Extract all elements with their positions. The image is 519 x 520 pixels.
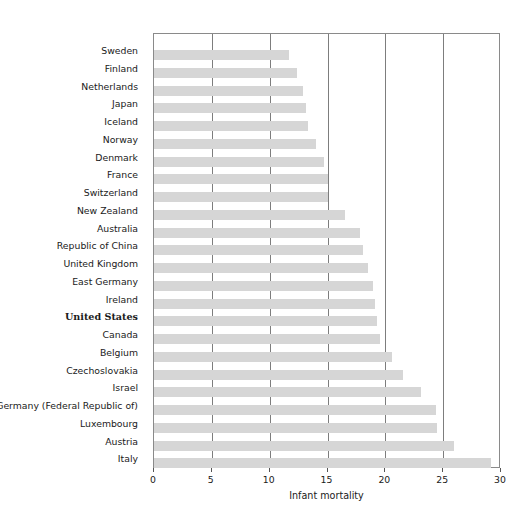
category-label: Austria: [105, 437, 138, 447]
bar: [154, 441, 454, 451]
bar-row: [154, 64, 501, 83]
bar-row: [154, 82, 501, 101]
bar: [154, 423, 437, 433]
x-tick-label: 10: [263, 474, 275, 485]
category-label: Norway: [103, 135, 138, 145]
bar: [154, 299, 375, 309]
bar: [154, 157, 324, 167]
bar-row: [154, 99, 501, 118]
category-label: Australia: [97, 224, 138, 234]
x-tick-mark: [327, 468, 328, 472]
category-label: Belgium: [100, 348, 138, 358]
bar-row: [154, 206, 501, 225]
bar-row: [154, 117, 501, 136]
category-label: Ireland: [106, 295, 138, 305]
category-label: Iceland: [104, 117, 138, 127]
bar: [154, 316, 377, 326]
category-label: Sweden: [101, 46, 138, 56]
category-label: Czechoslovakia: [66, 366, 138, 376]
category-label: Canada: [103, 330, 138, 340]
bar-row: [154, 277, 501, 296]
bar-row: [154, 348, 501, 367]
x-tick-mark: [442, 468, 443, 472]
x-axis: 051015202530 Infant mortality: [153, 468, 500, 469]
bar-row: [154, 366, 501, 385]
x-tick-mark: [384, 468, 385, 472]
bar: [154, 86, 303, 96]
plot-area: [153, 33, 500, 468]
category-label: Netherlands: [81, 82, 138, 92]
bar-row: [154, 46, 501, 65]
bar-row: [154, 259, 501, 278]
bar: [154, 458, 491, 468]
bar: [154, 228, 360, 238]
x-tick-mark: [269, 468, 270, 472]
category-label: Japan: [112, 99, 138, 109]
category-label: Republic of China: [57, 241, 138, 251]
bar: [154, 68, 297, 78]
x-tick-label: 0: [150, 474, 156, 485]
category-label: Denmark: [95, 153, 138, 163]
bar-row: [154, 383, 501, 402]
bar: [154, 334, 380, 344]
category-label: United Kingdom: [63, 259, 138, 269]
x-tick-mark: [500, 468, 501, 472]
bar: [154, 139, 316, 149]
category-label: East Germany: [72, 277, 138, 287]
bar: [154, 387, 421, 397]
bar: [154, 103, 306, 113]
x-axis-title: Infant mortality: [153, 490, 500, 501]
category-label: Switzerland: [84, 188, 138, 198]
x-tick-label: 15: [321, 474, 333, 485]
category-label: United States: [65, 312, 138, 322]
x-tick-label: 20: [378, 474, 390, 485]
category-label: Germany (Federal Republic of): [0, 401, 138, 411]
bar-row: [154, 437, 501, 456]
bar-row: [154, 153, 501, 172]
bar: [154, 352, 392, 362]
bar-row: [154, 188, 501, 207]
bar-row: [154, 241, 501, 260]
category-label: Israel: [113, 383, 138, 393]
category-label: New Zealand: [77, 206, 138, 216]
category-axis-labels: SwedenFinlandNetherlandsJapanIcelandNorw…: [0, 33, 148, 468]
x-tick-label: 25: [436, 474, 448, 485]
x-tick-mark: [153, 468, 154, 472]
x-tick-label: 30: [494, 474, 506, 485]
bar: [154, 281, 373, 291]
bar-row: [154, 401, 501, 420]
bar-row: [154, 224, 501, 243]
category-label: France: [107, 170, 138, 180]
bar: [154, 174, 328, 184]
category-label: Finland: [105, 64, 138, 74]
bar-row: [154, 170, 501, 189]
bar: [154, 192, 328, 202]
bar-row: [154, 295, 501, 314]
bar: [154, 50, 289, 60]
bar: [154, 210, 345, 220]
bar-row: [154, 330, 501, 349]
category-label: Luxembourg: [80, 419, 138, 429]
bar: [154, 405, 436, 415]
bar-row: [154, 454, 501, 473]
x-tick-mark: [211, 468, 212, 472]
bar: [154, 370, 403, 380]
bar: [154, 245, 363, 255]
bar: [154, 263, 368, 273]
x-tick-label: 5: [208, 474, 214, 485]
bar-series: [154, 34, 499, 467]
bar-row: [154, 135, 501, 154]
bar-row: [154, 312, 501, 331]
bar-row: [154, 419, 501, 438]
chart-figure: SwedenFinlandNetherlandsJapanIcelandNorw…: [0, 0, 519, 520]
category-label: Italy: [118, 454, 138, 464]
bar: [154, 121, 308, 131]
